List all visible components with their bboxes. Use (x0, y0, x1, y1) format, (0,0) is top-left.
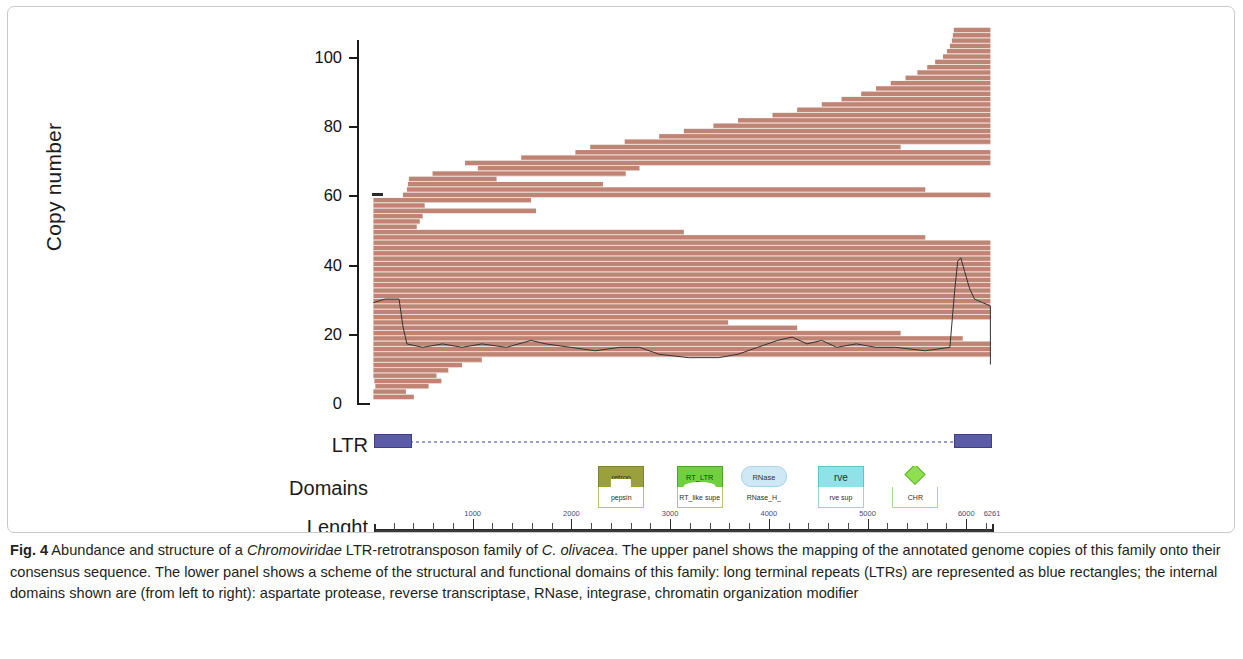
read-bar-separator (373, 367, 462, 368)
read-bar (373, 224, 416, 229)
read-bar-separator (797, 112, 990, 113)
ruler-minor-tick (631, 523, 632, 530)
read-bar (373, 278, 990, 283)
read-bar-separator (373, 330, 797, 331)
read-bar-separator (950, 48, 991, 49)
domain-bottom-label: pepsin (598, 487, 644, 508)
coverage-profile-line (373, 258, 990, 358)
read-bar-separator (373, 394, 406, 395)
read-bar-separator (409, 181, 497, 182)
read-bar-separator (738, 123, 990, 124)
ruler-minor-tick (650, 523, 651, 530)
read-bar (373, 326, 797, 331)
ltr-box-right (954, 434, 992, 448)
read-bar (373, 368, 448, 373)
read-bar (373, 251, 990, 256)
domain-reverse-transcriptase[interactable]: RT_LTRRT_like supe (677, 466, 723, 508)
domain-chromatin-organization-modifier[interactable]: CHR (892, 466, 938, 508)
ruler-minor-tick (552, 523, 553, 530)
ruler-major-tick-3000 (670, 519, 671, 530)
read-bar (954, 28, 991, 33)
read-bar-separator (373, 229, 416, 230)
read-bar-separator (373, 341, 962, 342)
read-bar (625, 139, 991, 144)
read-bar-separator (861, 96, 990, 97)
caption-italic-1: Chromoviridae (247, 542, 342, 558)
y-tick-mark-60 (349, 195, 359, 197)
read-bar-separator (954, 32, 991, 33)
y-tick-mark-80 (349, 126, 359, 128)
read-bar-separator (891, 85, 991, 86)
ruler-minor-tick (828, 523, 829, 530)
read-bar (373, 203, 424, 208)
read-bar-separator (953, 38, 991, 39)
figure-root: Copy number 020406080100 LTR Domains ret… (0, 0, 1243, 659)
read-bar-separator (408, 186, 603, 187)
ltr-connector-line (374, 441, 992, 443)
read-bar-separator (373, 218, 422, 219)
ruler-minor-tick (611, 523, 612, 530)
domain-rnase[interactable]: RNaseRNase_H_ (741, 466, 787, 508)
read-bar (659, 134, 990, 139)
read-bar-separator (373, 208, 424, 209)
read-bar-separator (575, 154, 990, 155)
domain-aspartate-protease[interactable]: retroppepsin (598, 466, 644, 508)
ruler-minor-tick (394, 523, 395, 530)
read-bar-separator (841, 101, 990, 102)
read-bar-separator (373, 282, 990, 283)
ruler-minor-tick (927, 523, 928, 530)
stray-tick-mark (372, 193, 383, 196)
read-bar-separator (590, 149, 900, 150)
read-bar-separator (373, 378, 436, 379)
ruler-minor-tick (986, 523, 987, 530)
ruler-minor-tick (492, 523, 493, 530)
ruler-label-1000: 1000 (451, 509, 495, 518)
ltr-row-label: LTR (178, 434, 368, 457)
read-bar (375, 384, 428, 389)
domain-integrase[interactable]: rverve sup (818, 466, 864, 508)
ruler-label-4000: 4000 (747, 509, 791, 518)
read-bar-separator (876, 91, 990, 92)
y-tick-mark-100 (349, 57, 359, 59)
read-bar-separator (373, 309, 990, 310)
read-bar (575, 150, 990, 155)
ruler-minor-tick (789, 523, 790, 530)
read-bar (465, 161, 990, 166)
read-bar-separator (373, 224, 419, 225)
ruler-minor-tick (433, 523, 434, 530)
read-bar (521, 155, 990, 160)
ruler-minor-tick (729, 523, 730, 530)
read-bar (927, 65, 990, 70)
read-bar (713, 123, 990, 128)
read-bar (952, 38, 991, 43)
read-bar (797, 108, 990, 113)
read-bar-separator (373, 250, 990, 251)
ruler-minor-tick (453, 523, 454, 530)
read-bar-separator (373, 256, 990, 257)
read-bar-separator (947, 53, 990, 54)
read-bar (373, 304, 990, 309)
ruler-minor-tick (413, 523, 414, 530)
read-bar-separator (373, 346, 990, 347)
domain-top-label: RT_LTR (677, 466, 723, 487)
read-bar-separator (917, 75, 990, 76)
domain-bottom-label: rve sup (818, 487, 864, 508)
read-bar (374, 379, 441, 384)
ruler-minor-tick (710, 523, 711, 530)
y-tick-label-20: 20 (300, 325, 342, 344)
caption-part-2: LTR-retrotransposon family of (342, 542, 542, 558)
read-bar (373, 373, 436, 378)
read-bar-separator (373, 287, 990, 288)
read-bar-separator (952, 43, 991, 44)
y-tick-mark-40 (349, 265, 359, 267)
read-bar (433, 171, 626, 176)
read-bar (373, 230, 683, 235)
read-bar-separator (465, 165, 990, 166)
read-bar (935, 60, 990, 65)
figure-caption: Fig. 4 Abundance and structure of a Chro… (10, 540, 1234, 605)
read-bar-separator (373, 373, 448, 374)
domain-top-label: RNase (741, 466, 787, 487)
read-bar-separator (478, 170, 640, 171)
read-bar (943, 54, 990, 59)
ruler-minor-tick (532, 523, 533, 530)
